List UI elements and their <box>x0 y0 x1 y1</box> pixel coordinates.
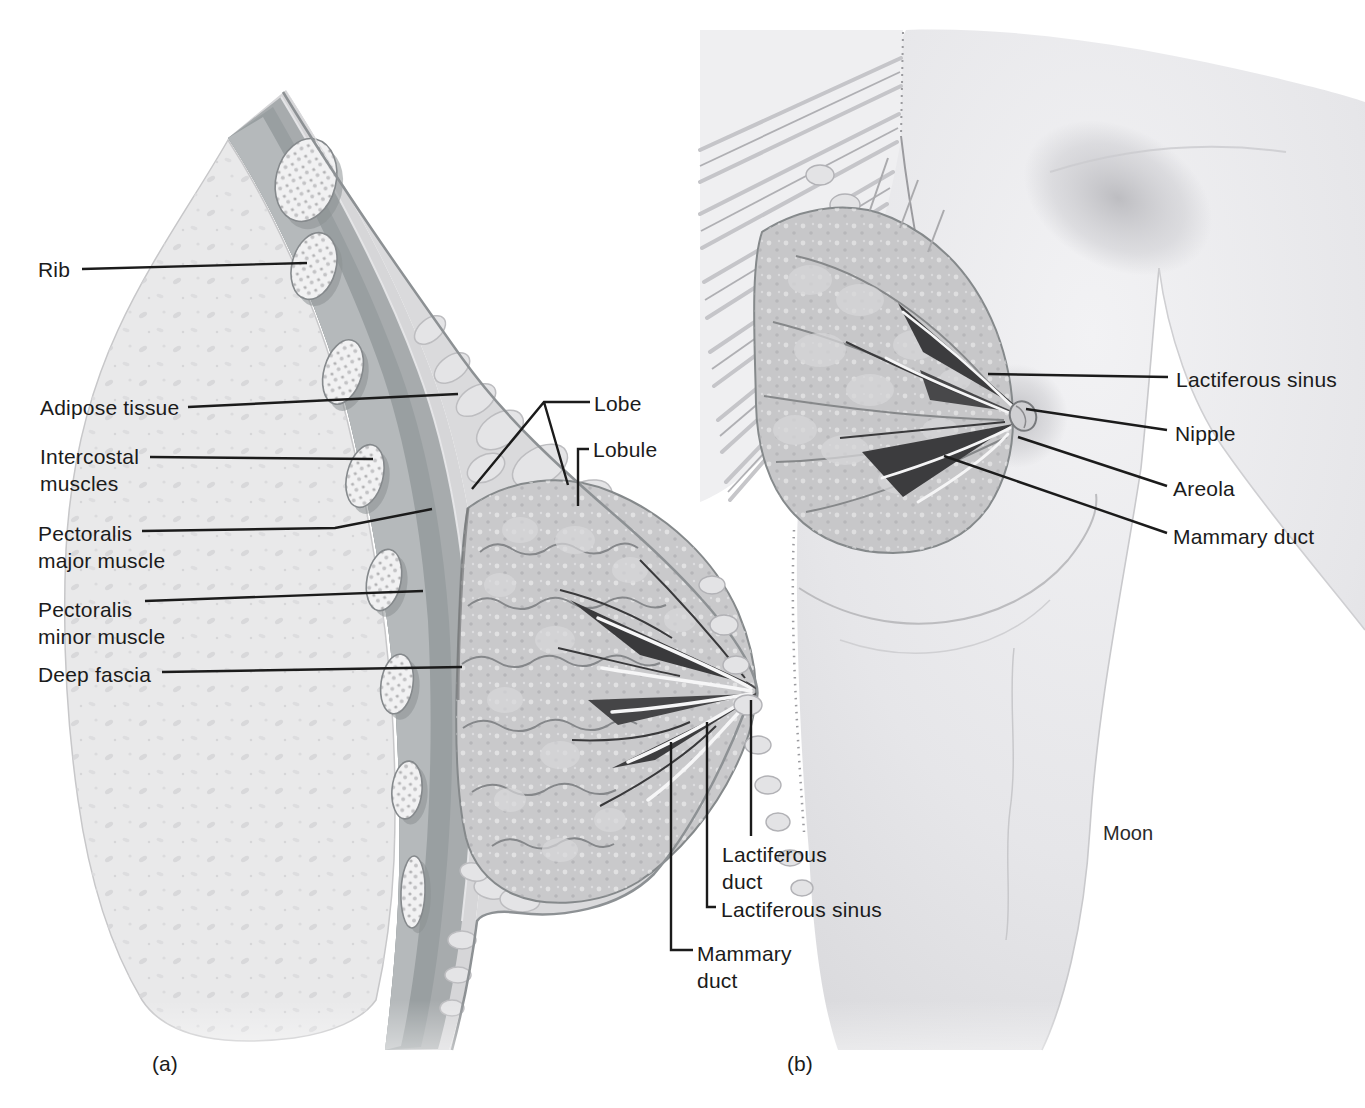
label-intercostal-muscles: Intercostal muscles <box>40 443 139 497</box>
label-pectoralis-major: Pectoralis major muscle <box>38 520 165 574</box>
label-lactiferous-sinus-b: Lactiferous sinus <box>1176 366 1337 393</box>
label-deep-fascia: Deep fascia <box>38 661 151 688</box>
illustration-canvas <box>0 0 1365 1108</box>
label-rib: Rib <box>38 256 70 283</box>
label-nipple-b: Nipple <box>1175 420 1236 447</box>
caption-panel-a: (a) <box>152 1052 178 1076</box>
label-areola-b: Areola <box>1173 475 1235 502</box>
label-mammary-duct-a: Mammary duct <box>697 940 792 994</box>
label-lobule: Lobule <box>593 436 657 463</box>
caption-panel-b: (b) <box>787 1052 813 1076</box>
label-adipose-tissue: Adipose tissue <box>40 394 179 421</box>
label-pectoralis-minor: Pectoralis minor muscle <box>38 596 165 650</box>
artist-credit: Moon <box>1103 822 1153 845</box>
anatomy-figure: Rib Adipose tissue Intercostal muscles P… <box>0 0 1365 1108</box>
bottom-fade <box>0 1000 1365 1108</box>
label-lactiferous-sinus-a: Lactiferous sinus <box>721 896 882 923</box>
panel-a-sagittal-section <box>65 90 758 1050</box>
label-mammary-duct-b: Mammary duct <box>1173 523 1314 550</box>
label-lobe: Lobe <box>594 390 642 417</box>
label-lactiferous-duct-a: Lactiferous duct <box>722 841 827 895</box>
mammary-gland-a <box>456 480 756 902</box>
